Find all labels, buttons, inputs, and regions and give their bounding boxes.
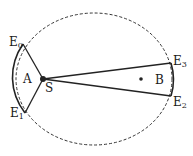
radius-s-e2: [43, 79, 171, 96]
focus-dot: [139, 77, 143, 81]
label-e1: E1: [10, 107, 24, 121]
label-area-b: B: [155, 74, 164, 86]
radius-s-e3: [43, 63, 171, 79]
label-area-a: A: [23, 73, 32, 85]
label-sun: S: [45, 82, 53, 94]
label-e3: E3: [173, 55, 187, 69]
label-e0: E0: [9, 36, 23, 50]
label-e2: E2: [173, 96, 187, 110]
orbit-ellipse: [16, 13, 172, 145]
